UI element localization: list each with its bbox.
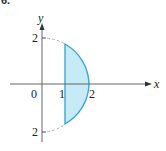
y-tick-label-neg2: 2	[32, 125, 38, 139]
x-tick-label-0: 0	[31, 87, 37, 101]
y-axis-label: y	[37, 11, 44, 25]
x-tick-label-1: 1	[59, 87, 65, 101]
diagram-canvas: y x 2 2 0 1 2	[0, 0, 166, 151]
dashed-circle-arc-bottom	[42, 124, 65, 132]
x-tick-label-2: 2	[89, 87, 95, 101]
x-axis-label: x	[153, 77, 160, 91]
x-axis-arrow-icon	[145, 82, 152, 87]
dashed-circle-arc-top	[42, 38, 65, 44]
y-tick-label-2: 2	[32, 31, 38, 45]
